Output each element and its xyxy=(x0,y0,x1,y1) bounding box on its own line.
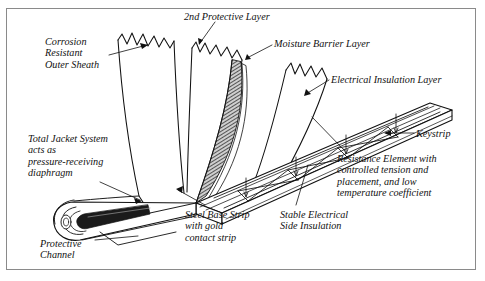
label-electrical-insulation-layer: Electrical Insulation Layer xyxy=(331,74,441,85)
diagram-root: Corrosion Resistant Outer Sheath 2nd Pro… xyxy=(0,0,485,281)
label-steel-base-strip: Steel Base Strip with gold contact strip xyxy=(185,209,250,243)
label-corrosion-resistant-outer-sheath: Corrosion Resistant Outer Sheath xyxy=(45,36,99,70)
protective-channel-end xyxy=(54,200,196,240)
label-total-jacket-system: Total Jacket System acts as pressure-rec… xyxy=(28,133,108,179)
label-moisture-barrier-layer: Moisture Barrier Layer xyxy=(274,38,370,49)
outer-sheath-flap xyxy=(118,33,184,213)
label-stable-electrical-side-insulation: Stable Electrical Side Insulation xyxy=(280,209,348,232)
label-keystrip: Keystrip xyxy=(416,128,451,139)
label-second-protective-layer: 2nd Protective Layer xyxy=(184,11,270,22)
label-resistance-element: Resistance Element with controlled tensi… xyxy=(337,153,437,199)
label-protective-channel: Protective Channel xyxy=(40,238,81,261)
